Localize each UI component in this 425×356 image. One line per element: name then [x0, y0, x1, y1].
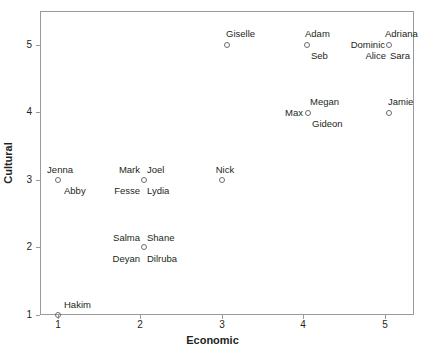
- point-label-megan: Megan: [310, 97, 339, 107]
- y-tick-text-1: 1: [26, 309, 32, 320]
- x-tick-label-1: 1: [55, 319, 61, 330]
- y-tick-mark-1: [36, 315, 40, 316]
- point-label-mark: Mark: [119, 165, 140, 175]
- data-point-hakim[interactable]: [55, 312, 61, 318]
- y-tick-mark-4: [36, 112, 40, 113]
- data-point-adriana[interactable]: [386, 42, 392, 48]
- y-tick-text-2: 2: [26, 241, 32, 252]
- point-label-jamie: Jamie: [388, 97, 413, 107]
- y-tick-mark-2: [36, 247, 40, 248]
- point-label-max: Max: [285, 108, 303, 118]
- point-label-giselle: Giselle: [226, 29, 255, 39]
- point-label-dominic: Dominic: [351, 40, 385, 50]
- scatter-chart: 1 2 3 4 5 1 2 3 4 5 Economic Cultural Ha…: [0, 0, 425, 356]
- point-label-lydia: Lydia: [147, 186, 169, 196]
- x-tick-label-5: 5: [382, 319, 388, 330]
- point-label-salma: Salma: [113, 233, 140, 243]
- x-axis-title: Economic: [0, 334, 425, 346]
- data-point-adam[interactable]: [304, 42, 310, 48]
- point-label-alice: Alice: [365, 51, 386, 61]
- point-label-adam: Adam: [305, 29, 330, 39]
- y-tick-text-5: 5: [26, 39, 32, 50]
- x-tick-label-4: 4: [300, 319, 306, 330]
- data-point-jenna[interactable]: [55, 177, 61, 183]
- x-tick-label-2: 2: [137, 319, 143, 330]
- point-label-shane: Shane: [147, 233, 174, 243]
- y-tick-mark-3: [36, 180, 40, 181]
- point-label-sara: Sara: [390, 51, 410, 61]
- point-label-abby: Abby: [64, 186, 86, 196]
- data-point-mark[interactable]: [141, 177, 147, 183]
- point-label-gideon: Gideon: [312, 119, 343, 129]
- point-label-deyan: Deyan: [113, 254, 140, 264]
- point-label-hakim: Hakim: [64, 300, 91, 310]
- point-label-fesse: Fesse: [114, 186, 140, 196]
- point-label-adriana: Adriana: [385, 29, 418, 39]
- point-label-seb: Seb: [311, 51, 328, 61]
- point-label-dilruba: Dilruba: [147, 254, 177, 264]
- data-point-giselle[interactable]: [224, 42, 230, 48]
- point-label-jenna: Jenna: [47, 165, 73, 175]
- data-point-nick[interactable]: [219, 177, 225, 183]
- data-point-max[interactable]: [305, 110, 311, 116]
- y-tick-mark-5: [36, 45, 40, 46]
- y-axis-title: Cultural: [2, 123, 14, 203]
- point-label-joel: Joel: [147, 165, 164, 175]
- point-label-nick: Nick: [216, 165, 234, 175]
- data-point-salma[interactable]: [141, 244, 147, 250]
- x-tick-label-3: 3: [219, 319, 225, 330]
- y-tick-text-4: 4: [26, 106, 32, 117]
- y-tick-text-3: 3: [26, 174, 32, 185]
- data-point-jamie[interactable]: [386, 110, 392, 116]
- plot-area: [40, 11, 414, 315]
